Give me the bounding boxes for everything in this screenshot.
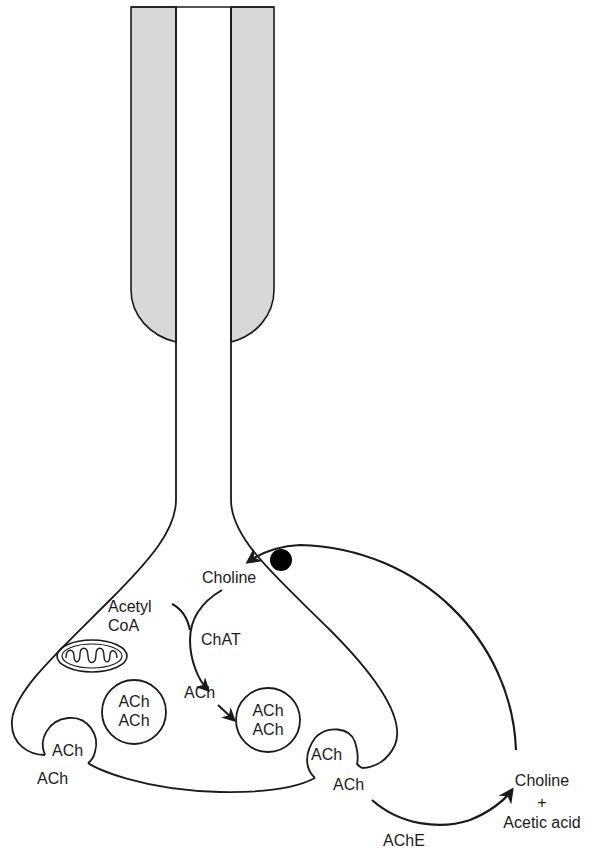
choline-transporter	[270, 549, 292, 571]
release-right-cleft-ach: ACh	[333, 776, 364, 794]
cholinergic-synapse-diagram	[0, 0, 596, 856]
terminal-bottom-membrane	[88, 763, 315, 792]
label-chat-enzyme: ChAT	[201, 631, 241, 649]
vesicle-middle-ach-2: ACh	[248, 721, 288, 739]
label-choline-inside: Choline	[202, 569, 256, 587]
vesicle-middle-ach-1: ACh	[248, 702, 288, 720]
label-acetic-acid: Acetic acid	[488, 814, 596, 832]
choline-reuptake-arrow	[248, 545, 516, 750]
myelin-sheath-left	[131, 7, 176, 342]
myelin-sheath-right	[231, 7, 274, 342]
release-left-vesicle-ach: ACh	[52, 742, 83, 760]
nerve-terminal-outline	[12, 7, 397, 768]
vesicle-left-ach-2: ACh	[114, 712, 154, 730]
release-left-cleft-ach: ACh	[37, 770, 68, 788]
label-choline-outside: Choline	[490, 772, 594, 790]
label-acetyl: Acetyl	[108, 598, 152, 616]
label-ach-synthesized: ACh	[184, 684, 215, 702]
label-ache-enzyme: AChE	[383, 832, 425, 850]
ach-to-vesicle-arrow	[218, 705, 234, 720]
vesicle-middle	[236, 688, 300, 752]
vesicle-left-ach-1: ACh	[114, 693, 154, 711]
label-coa: CoA	[108, 617, 139, 635]
acetylcoa-to-chat-arrow	[172, 604, 190, 630]
label-plus: +	[490, 794, 594, 812]
mitochondrion	[57, 640, 127, 672]
release-right-vesicle-ach: ACh	[311, 746, 342, 764]
